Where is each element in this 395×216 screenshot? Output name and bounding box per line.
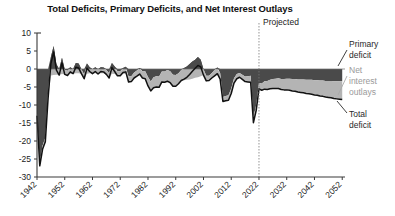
legend-label-total-deficit: Total [349, 109, 367, 119]
legend-label-net-interest-outlays: interest [349, 76, 378, 86]
chart-container: Total Deficits, Primary Deficits, and Ne… [0, 0, 395, 216]
legend-label-net-interest-outlays: outlays [349, 87, 376, 97]
legend-label-primary-deficit: Primary [349, 39, 379, 49]
projected-label: Projected [263, 17, 299, 27]
legend-label-total-deficit: deficit [349, 120, 372, 130]
annotation-text-layer: Projected PrimarydeficitNetinterestoutla… [0, 0, 395, 216]
legend-labels: PrimarydeficitNetinterestoutlaysTotaldef… [349, 39, 379, 130]
legend-label-primary-deficit: deficit [349, 50, 372, 60]
legend-label-net-interest-outlays: Net [349, 65, 363, 75]
